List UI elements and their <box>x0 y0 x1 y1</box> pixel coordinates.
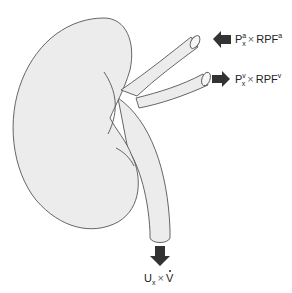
vein-P-sup: v <box>242 72 246 79</box>
urine-label: Ux×V <box>144 272 173 284</box>
vein-label: Pvx×RPFv <box>235 73 281 85</box>
vein-times: × <box>247 73 253 85</box>
urine-U-sub: x <box>152 279 156 286</box>
vein-RPF-sup: v <box>278 72 282 79</box>
artery-RPF: RPF <box>256 33 278 45</box>
urine-U: U <box>144 272 152 284</box>
vein-RPF: RPF <box>256 73 278 85</box>
vein-P-sub: x <box>242 80 246 87</box>
artery-P-sub: x <box>242 40 246 47</box>
urine-times: × <box>157 272 163 284</box>
artery-label: Pax×RPFa <box>235 33 282 45</box>
artery-times: × <box>248 33 254 45</box>
urine-V-dot: V <box>166 272 173 284</box>
arrow-down-icon <box>150 246 170 266</box>
kidney <box>13 18 138 229</box>
artery-P-sup: a <box>242 32 246 39</box>
arrow-right-icon <box>212 71 230 87</box>
arrow-left-icon <box>213 31 231 48</box>
artery-RPF-sup: a <box>278 32 282 39</box>
